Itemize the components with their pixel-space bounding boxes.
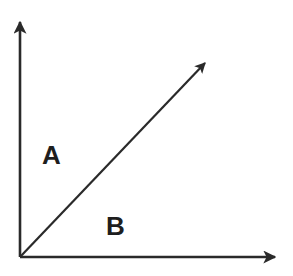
axes-diagram <box>0 0 293 276</box>
region-label-b: B <box>106 213 125 239</box>
region-label-a: A <box>42 142 61 168</box>
